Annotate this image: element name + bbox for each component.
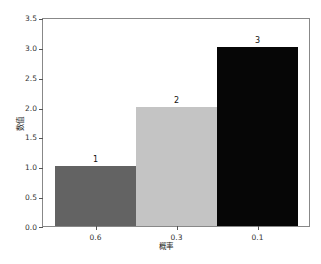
y-tick — [39, 138, 43, 139]
x-tick-label: 0.1 — [243, 233, 273, 242]
x-tick — [258, 226, 259, 230]
y-tick-label: 3.5 — [15, 15, 37, 23]
y-tick — [39, 19, 43, 20]
plot-area: 10.620.330.10.00.51.01.52.02.53.03.5 — [42, 18, 310, 227]
y-tick-label: 2.0 — [15, 105, 37, 113]
bar-value-label: 3 — [248, 36, 268, 45]
y-axis-label: 数值 — [14, 117, 25, 131]
y-tick-label: 0.5 — [15, 194, 37, 202]
y-tick — [39, 49, 43, 50]
bar-value-label: 2 — [167, 96, 187, 105]
y-tick — [39, 109, 43, 110]
y-tick — [39, 79, 43, 80]
bar-value-label: 1 — [86, 155, 106, 164]
x-axis-label: 概率 — [159, 240, 173, 251]
x-tick-label: 0.6 — [81, 233, 111, 242]
x-tick — [96, 226, 97, 230]
y-tick-label: 3.0 — [15, 45, 37, 53]
y-tick — [39, 227, 43, 228]
y-tick-label: 1.0 — [15, 164, 37, 172]
y-tick — [39, 198, 43, 199]
bar-0.6 — [55, 166, 136, 226]
x-tick — [177, 226, 178, 230]
y-tick — [39, 168, 43, 169]
bar-0.1 — [217, 47, 298, 226]
y-tick-label: 1.5 — [15, 134, 37, 142]
y-tick-label: 2.5 — [15, 75, 37, 83]
bar-0.3 — [136, 107, 217, 226]
y-tick-label: 0.0 — [15, 224, 37, 232]
